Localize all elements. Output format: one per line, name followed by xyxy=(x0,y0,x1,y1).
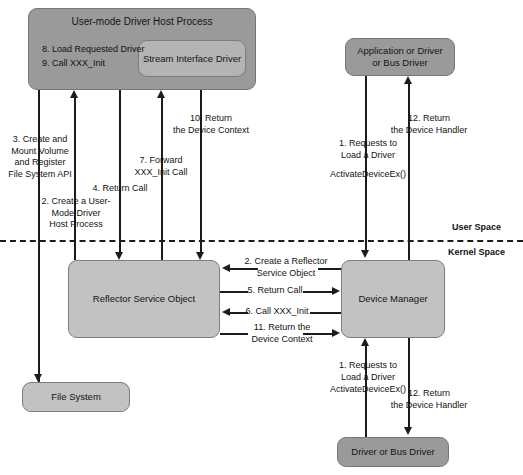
label-step1-upper: 1. Requests to Load a Driver xyxy=(325,138,411,161)
label-step2-left: 2. Create a User- Mode Driver Host Proce… xyxy=(30,196,122,231)
label-step6-mid: 6. Call XXX_Init xyxy=(243,306,311,318)
label-step11-mid: 11. Return the Device Context xyxy=(240,322,324,345)
connector-step11-mid-arrowhead xyxy=(332,329,340,337)
box-driver-or-bus-driver: Driver or Bus Driver xyxy=(337,437,449,467)
connector-step12-lower-arrowhead xyxy=(404,427,412,435)
application-or-driver-label: Application or Driver or Bus Driver xyxy=(357,45,443,69)
connector-step5-mid-arrowhead xyxy=(332,287,340,295)
label-step4: 4. Return Call xyxy=(82,183,158,195)
kernel-space-label: Kernel Space xyxy=(448,247,505,257)
connector-step12-upper-arrowhead xyxy=(404,76,412,84)
user-kernel-space-divider xyxy=(0,240,523,242)
label-step1-lower: 1. Requests to Load a Driver xyxy=(325,360,411,383)
diagram-canvas: User-mode Driver Host Process 8. Load Re… xyxy=(0,0,523,475)
box-device-manager: Device Manager xyxy=(341,260,445,338)
label-step1-upper-api: ActivateDeviceEx() xyxy=(325,169,411,181)
user-space-label: User Space xyxy=(452,222,501,232)
host-process-title: User-mode Driver Host Process xyxy=(71,16,212,28)
connector-step1-upper-line xyxy=(365,76,367,252)
connector-step2-left-arrowhead xyxy=(70,90,78,98)
host-step-8: 8. Load Requested Driver xyxy=(42,42,162,56)
label-step12-lower: 12. Return the Device Handler xyxy=(378,388,480,411)
label-step2-mid: 2. Create a Reflector Service Object xyxy=(232,256,340,279)
connector-step7-arrowhead xyxy=(157,90,165,98)
label-step10: 10. Return the Device Context xyxy=(163,113,259,136)
connector-step10-arrowhead xyxy=(196,252,204,260)
host-step-9: 9. Call XXX_Init xyxy=(42,56,162,70)
host-process-steps: 8. Load Requested Driver 9. Call XXX_Ini… xyxy=(42,42,162,70)
connector-step6-mid-arrowhead xyxy=(222,308,230,316)
device-manager-label: Device Manager xyxy=(358,293,427,305)
box-application-or-driver: Application or Driver or Bus Driver xyxy=(345,38,455,76)
connector-step3-arrowhead xyxy=(34,374,42,382)
box-file-system: File System xyxy=(22,382,130,412)
connector-step10-line xyxy=(200,77,202,254)
label-step5-mid: 5. Return Call xyxy=(243,285,307,297)
connector-step6-mid-line-right xyxy=(310,312,341,314)
driver-or-bus-driver-label: Driver or Bus Driver xyxy=(351,446,434,458)
box-reflector-service-object: Reflector Service Object xyxy=(68,260,220,338)
label-step3: 3. Create and Mount Volume and Register … xyxy=(2,134,78,180)
connector-step1-upper-arrowhead xyxy=(361,250,369,258)
label-step7: 7. Forward XXX_Init Call xyxy=(122,155,200,178)
label-step12-upper: 12. Return the Device Handler xyxy=(378,113,480,136)
reflector-service-object-label: Reflector Service Object xyxy=(93,293,195,305)
connector-step1-lower-arrowhead xyxy=(361,338,369,346)
connector-step5-mid-line-right xyxy=(303,291,333,293)
connector-step4-arrowhead xyxy=(115,252,123,260)
file-system-label: File System xyxy=(51,391,101,403)
connector-step2-mid-arrowhead xyxy=(222,264,230,272)
